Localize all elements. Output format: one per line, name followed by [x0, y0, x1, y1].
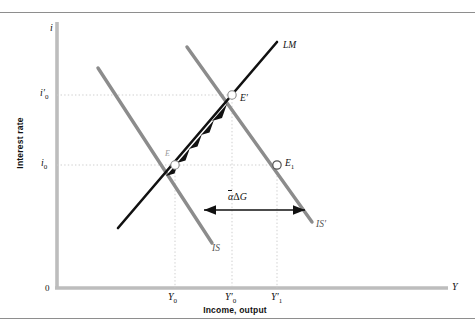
y-tick-i-zero-prime: i′0 — [40, 87, 48, 101]
variable-G-symbol: G — [240, 191, 247, 202]
x-tick-Y-zero: Y0 — [168, 291, 177, 305]
point-label-sub: 1 — [291, 163, 295, 171]
y-tick-i-zero: i0 — [41, 157, 47, 171]
point-label-E: E — [165, 149, 170, 158]
x-axis-title: Income, output — [160, 305, 310, 315]
point-label-E-one: E1 — [285, 158, 294, 171]
curve-label-IS-prime: IS′ — [316, 219, 326, 229]
shift-magnitude-label: αΔG — [228, 191, 247, 202]
point-marker-E-prime — [228, 91, 236, 99]
curve-label-LM: LM — [283, 40, 296, 50]
is-lm-plot — [0, 0, 475, 330]
y-tick-sub: 0 — [45, 93, 49, 101]
curve-label-IS: IS — [212, 243, 220, 253]
y-tick-sub: 0 — [44, 163, 48, 171]
x-tick-sub: 0 — [233, 297, 237, 305]
point-label-E-prime: E′ — [240, 93, 248, 103]
x-tick-Y-zero-prime: Y′0 — [225, 291, 236, 305]
y-axis-symbol: i — [50, 22, 53, 33]
point-marker-E — [171, 161, 179, 169]
curve-IS — [98, 68, 212, 243]
x-axis-symbol: Y — [452, 281, 458, 292]
alpha-bar-symbol: α — [228, 191, 233, 202]
figure-container: i Y 0 Interest rate Income, output i′0 i… — [0, 0, 475, 330]
x-tick-Y-one-prime: Y′1 — [271, 291, 282, 305]
gridlines — [57, 95, 281, 288]
y-axis-title: Interest rate — [15, 97, 25, 189]
axis-lines — [55, 22, 448, 288]
x-tick-sub: 1 — [279, 297, 283, 305]
origin-label: 0 — [45, 283, 50, 293]
point-marker-E-one — [273, 161, 281, 169]
x-tick-sub: 0 — [174, 297, 178, 305]
